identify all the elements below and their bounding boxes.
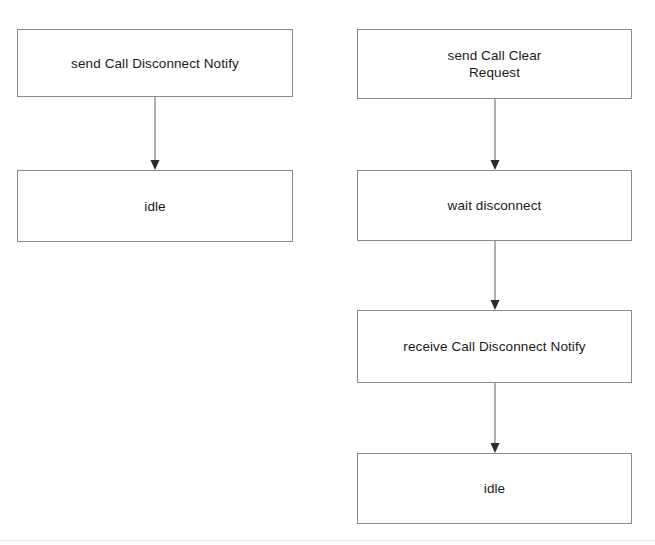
arrowhead-icon <box>491 300 500 310</box>
node-idle-left[interactable]: idle <box>17 170 293 242</box>
arrowhead-icon <box>491 160 500 170</box>
page-edge-artifact <box>0 540 655 541</box>
node-idle-right[interactable]: idle <box>357 453 632 524</box>
edge-wait-disconnect-to-receive-notify <box>483 241 507 310</box>
diagram-canvas: send Call Disconnect Notify idle send Ca… <box>0 0 655 545</box>
node-label: send Call Clear Request <box>442 47 548 81</box>
node-send-call-clear-request[interactable]: send Call Clear Request <box>357 29 632 99</box>
node-receive-call-disconnect-notify[interactable]: receive Call Disconnect Notify <box>357 310 632 383</box>
edge-send-disconnect-to-idle <box>143 97 167 170</box>
node-wait-disconnect[interactable]: wait disconnect <box>357 170 632 241</box>
node-label: idle <box>478 480 511 497</box>
arrowhead-icon <box>491 443 500 453</box>
node-label: send Call Disconnect Notify <box>65 55 245 72</box>
edge-receive-notify-to-idle <box>483 383 507 453</box>
node-label: idle <box>138 198 171 215</box>
node-send-call-disconnect-notify[interactable]: send Call Disconnect Notify <box>17 29 293 97</box>
edge-clear-request-to-wait-disconnect <box>483 99 507 170</box>
node-label: wait disconnect <box>442 197 548 214</box>
arrowhead-icon <box>151 160 160 170</box>
node-label: receive Call Disconnect Notify <box>397 338 591 355</box>
